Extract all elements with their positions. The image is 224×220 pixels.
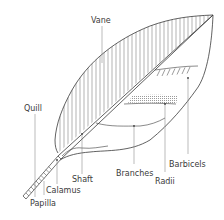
radii-stippled-band — [128, 95, 178, 104]
label-branches: Branches — [116, 169, 153, 178]
label-quill: Quill — [24, 104, 42, 113]
barbicel-hooks — [157, 67, 190, 76]
label-shaft: Shaft — [72, 175, 93, 184]
label-radii: Radii — [155, 177, 175, 186]
barb-line-upper — [155, 66, 198, 70]
label-papilla: Papilla — [30, 199, 56, 208]
feather-diagram: Vane Quill Shaft Calamus Papilla Branche… — [0, 0, 224, 220]
barb-line-lower — [124, 103, 176, 104]
branches-barb-line — [96, 118, 165, 126]
label-vane: Vane — [91, 16, 111, 25]
label-barbicels: Barbicels — [169, 160, 206, 169]
label-calamus: Calamus — [46, 186, 81, 195]
shaft-line-upper — [58, 15, 213, 156]
